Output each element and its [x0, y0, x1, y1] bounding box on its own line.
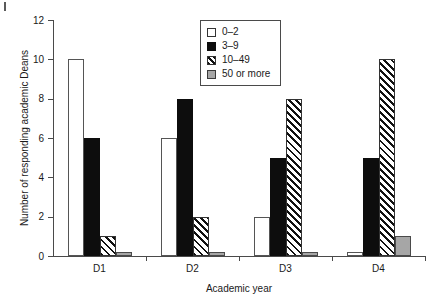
y-axis-tick: 10 [48, 59, 53, 60]
y-axis-tick-label: 2 [38, 212, 44, 222]
y-axis-tick-label: 8 [38, 94, 44, 104]
x-axis-tick [239, 256, 240, 261]
y-axis-tick-label: 6 [38, 134, 44, 144]
y-axis-tick-label: 10 [33, 55, 44, 65]
bar [286, 99, 302, 256]
bar [177, 99, 193, 256]
bar-chart-figure: 024681012 D1D2D3D4 Academic year Number … [0, 0, 433, 306]
legend-item: 10–49 [207, 53, 270, 67]
bar [68, 59, 84, 256]
legend-swatch-icon [207, 28, 216, 37]
y-axis-tick: 4 [48, 177, 53, 178]
legend-item-label: 3–9 [222, 41, 239, 51]
y-axis-line [53, 20, 54, 256]
y-axis-tick: 0 [48, 256, 53, 257]
bar [347, 252, 363, 256]
legend-item-label: 10–49 [222, 55, 250, 65]
y-axis-tick: 12 [48, 20, 53, 21]
bar [209, 252, 225, 256]
bar [84, 138, 100, 256]
bar [254, 217, 270, 256]
legend-swatch-icon [207, 42, 216, 51]
page-artifact-mark [4, 2, 6, 11]
x-axis-tick [332, 256, 333, 261]
x-axis-category-label: D4 [332, 264, 425, 274]
bar [363, 158, 379, 256]
bar [116, 252, 132, 256]
x-axis-tick [425, 256, 426, 261]
bar [302, 252, 318, 256]
legend-swatch-icon [207, 70, 216, 79]
legend-item: 0–2 [207, 25, 270, 39]
y-axis-tick: 8 [48, 99, 53, 100]
bar [193, 217, 209, 256]
y-axis-tick-label: 4 [38, 173, 44, 183]
bar [161, 138, 177, 256]
x-axis-category-label: D3 [239, 264, 332, 274]
legend-item-label: 0–2 [222, 27, 239, 37]
y-axis-tick: 6 [48, 138, 53, 139]
legend: 0–23–910–4950 or more [200, 20, 281, 86]
y-axis-title: Number of responding academic Deans [18, 20, 32, 256]
x-axis-category-label: D1 [53, 264, 146, 274]
legend-item: 3–9 [207, 39, 270, 53]
legend-item-label: 50 or more [222, 69, 270, 79]
bar [395, 236, 411, 256]
y-axis-tick-label: 0 [38, 252, 44, 262]
x-axis-title: Academic year [53, 284, 425, 294]
y-axis-tick-label: 12 [33, 16, 44, 26]
bar [270, 158, 286, 256]
y-axis-tick: 2 [48, 217, 53, 218]
legend-item: 50 or more [207, 67, 270, 81]
x-axis-tick [146, 256, 147, 261]
bar [100, 236, 116, 256]
x-axis-category-label: D2 [146, 264, 239, 274]
bar [379, 59, 395, 256]
legend-swatch-icon [207, 56, 216, 65]
